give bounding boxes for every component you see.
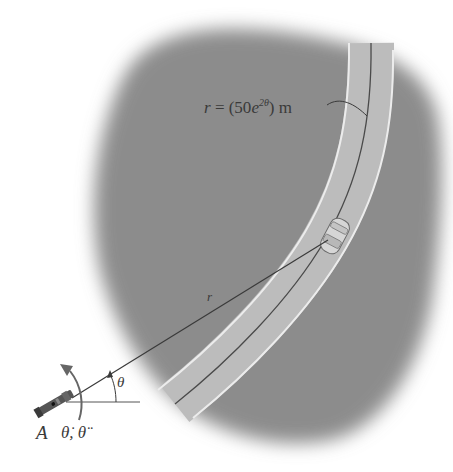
equation-r: r (204, 98, 211, 117)
equation-units: ) m (269, 98, 292, 117)
angular-rates-label: θ̇, θ̈ (61, 424, 86, 441)
angular-rate-arrowhead-icon (60, 364, 73, 376)
point-a-label: A (36, 423, 48, 442)
path-equation-label: r = (50e2θ) m (204, 98, 292, 116)
equation-exponent: 2θ (259, 97, 269, 108)
equation-e: e (251, 98, 259, 117)
angle-theta-label: θ (117, 375, 124, 390)
theta-arc-arrowhead-icon (107, 370, 113, 378)
theta-angle-arc (110, 374, 116, 402)
radial-distance-label: r (207, 290, 212, 303)
diagram-canvas (0, 0, 453, 472)
tracking-device-icon (33, 389, 74, 419)
equation-body: = (50 (211, 98, 252, 117)
